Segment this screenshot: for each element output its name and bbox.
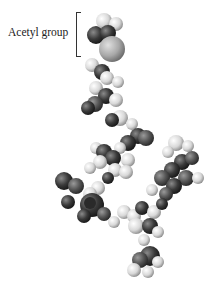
- right-branch-atoms: [146, 135, 204, 201]
- backbone-lower-atoms: [108, 198, 168, 278]
- backbone-middle-atoms: [84, 128, 154, 184]
- molecule-model: [0, 0, 213, 285]
- backbone-upper-atoms: [81, 58, 138, 130]
- acetyl-group-atoms: [87, 13, 125, 62]
